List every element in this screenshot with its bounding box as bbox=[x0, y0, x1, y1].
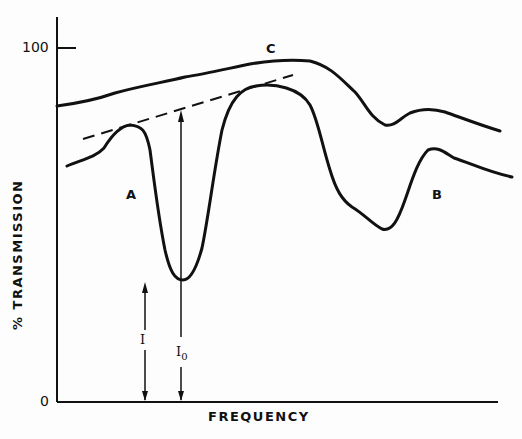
lower-trace-absorption bbox=[67, 85, 512, 280]
y-axis-title: % TRANSMISSION bbox=[10, 180, 25, 330]
i0-label-subscript: 0 bbox=[181, 351, 187, 362]
i0-arrow-head-down bbox=[178, 391, 184, 401]
ir-spectrum-figure: 100 0 A B C I I0 % TRANSMISSION FREQUENC… bbox=[0, 0, 522, 439]
i-arrow-head-up bbox=[142, 282, 148, 293]
i-label: I bbox=[140, 332, 145, 347]
band-b-label: B bbox=[432, 187, 442, 202]
y-tick-label-0: 0 bbox=[40, 393, 49, 409]
i-arrow-head-down bbox=[142, 391, 148, 401]
x-axis-title: FREQUENCY bbox=[208, 409, 310, 424]
y-tick-label-100: 100 bbox=[22, 39, 49, 55]
i0-label: I0 bbox=[176, 344, 188, 359]
trace-c-label: C bbox=[266, 41, 276, 56]
upper-trace-c bbox=[57, 60, 500, 131]
i0-arrow-head-up bbox=[178, 110, 184, 122]
chart-canvas bbox=[0, 0, 522, 439]
band-a-label: A bbox=[126, 187, 136, 202]
baseline-dashed bbox=[83, 75, 293, 139]
